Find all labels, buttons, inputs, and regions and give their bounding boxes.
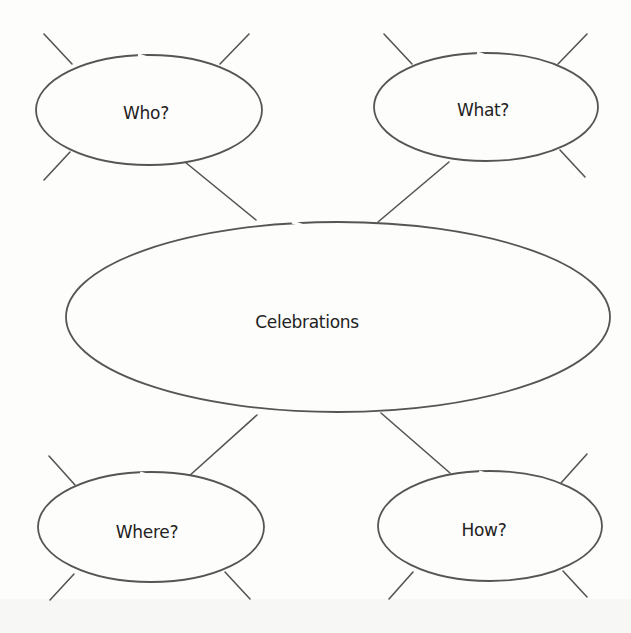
how-label: How?: [462, 520, 507, 540]
how-spoke-bottom-right: [563, 571, 587, 597]
who-label: Who?: [123, 103, 169, 123]
how-spoke-top-right: [561, 454, 587, 483]
who-spoke-top-left: [44, 34, 72, 64]
what-to-center-connector: [378, 162, 449, 222]
who-to-center-connector: [185, 162, 256, 220]
where-label: Where?: [116, 522, 178, 542]
what-spoke-top-right: [558, 34, 587, 64]
spider-map-canvas: Who? What? Celebrations Where? How?: [0, 0, 631, 633]
what-spoke-bottom-right: [560, 150, 585, 177]
where-spoke-bottom-right: [225, 572, 250, 599]
how-to-center-connector: [381, 413, 450, 473]
who-spoke-top-right: [220, 34, 249, 64]
where-to-center-connector: [188, 415, 257, 477]
who-spoke-bottom-left: [44, 152, 70, 180]
where-spoke-top-left: [49, 456, 75, 485]
what-spoke-top-left: [384, 34, 412, 64]
what-label: What?: [457, 100, 509, 120]
where-spoke-bottom-left: [50, 574, 74, 600]
center-label: Celebrations: [255, 312, 359, 332]
how-spoke-bottom-left: [389, 572, 413, 599]
